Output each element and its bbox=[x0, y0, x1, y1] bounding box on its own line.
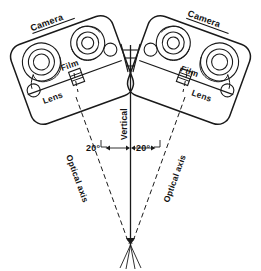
film-leader-right bbox=[183, 73, 187, 92]
camera-left-label-group: Camera bbox=[29, 8, 75, 33]
film-right-label: Film bbox=[179, 63, 200, 79]
camera-left bbox=[7, 12, 137, 128]
optical-axis-left-label: Optical axis bbox=[64, 153, 91, 204]
spool-right-takeup bbox=[151, 21, 195, 65]
diagram-canvas: Camera Camera Film Film Lens Lens Vertic… bbox=[0, 0, 261, 271]
angle-right-label: 20° bbox=[136, 143, 150, 153]
camera-right-label-group: Camera bbox=[186, 8, 232, 33]
lens-left-label: Lens bbox=[41, 89, 64, 105]
angle-indicator-left bbox=[101, 140, 130, 151]
convergence-point bbox=[120, 238, 141, 269]
optical-axis-right-label: Optical axis bbox=[161, 153, 188, 204]
spool-right-supply bbox=[194, 38, 244, 90]
camera-left-body bbox=[7, 12, 137, 128]
angle-left-label: 20° bbox=[86, 143, 100, 153]
film-leader-left bbox=[74, 73, 78, 92]
stereo-camera-diagram: Camera Camera Film Film Lens Lens Vertic… bbox=[0, 0, 261, 271]
film-left-label: Film bbox=[59, 57, 80, 73]
lens-right-label: Lens bbox=[190, 87, 213, 103]
vertical-label: Vertical bbox=[119, 108, 129, 140]
